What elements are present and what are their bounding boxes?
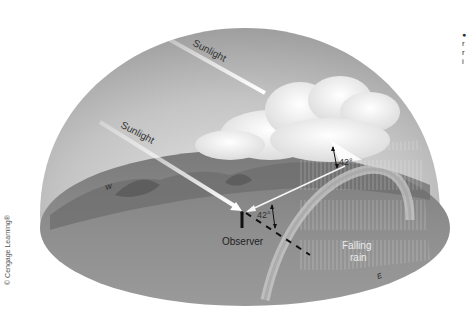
label-falling-rain-line2: rain: [350, 252, 367, 263]
rainbow-diagram: Sunlight Sunlight 42° 42° Observer Falli…: [0, 0, 471, 318]
label-angle-lower: 42°: [257, 210, 271, 220]
diagram-svg: Sunlight Sunlight 42° 42° Observer Falli…: [0, 0, 471, 318]
copyright-credit: © Cengage Learning®: [4, 215, 11, 285]
observer-figure: [240, 211, 244, 228]
label-angle-upper: 42°: [339, 157, 353, 167]
side-note-text: i: [462, 57, 471, 66]
label-observer: Observer: [222, 236, 264, 247]
side-note-bullet: ●: [462, 30, 471, 39]
side-note-text: r: [462, 48, 471, 57]
side-note-fragment: ● r r i: [462, 30, 471, 66]
label-falling-rain-line1: Falling: [342, 240, 371, 251]
side-note-text: r: [462, 39, 471, 48]
